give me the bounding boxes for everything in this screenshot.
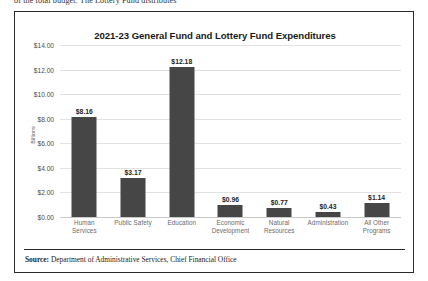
bar-value-label: $0.43 [319,203,336,210]
bar[interactable] [218,205,243,217]
bar[interactable] [267,208,292,217]
bar-slot: $0.77 [255,45,304,217]
x-axis-category-line: Administration [304,219,353,227]
chart-title: 2021-23 General Fund and Lottery Fund Ex… [15,30,415,41]
x-axis-category-line: Natural [255,219,304,227]
y-tick-label: $8.00 [37,115,54,122]
figure-container: 2021-23 General Fund and Lottery Fund Ex… [14,11,414,273]
bar-slot: $0.43 [304,45,353,217]
bar-slot: $3.17 [109,45,158,217]
clipped-body-text: of the total budget. The Lottery Fund di… [14,0,414,6]
x-axis-category-line: Economic [206,219,255,227]
x-axis-category-label: Education [157,219,206,227]
bar[interactable] [364,203,389,217]
bar-value-label: $0.77 [271,199,288,206]
x-axis-category-line: Education [157,219,206,227]
bar[interactable] [169,67,194,217]
x-axis-category-label: Public Safety [109,219,158,227]
bar-value-label: $12.18 [171,58,192,65]
y-tick-label: $4.00 [37,164,54,171]
y-tick-label: $2.00 [37,189,54,196]
y-tick-label: $6.00 [37,140,54,147]
x-axis-category-label: NaturalResources [255,219,304,236]
x-axis-category-line: Development [206,227,255,235]
x-axis-category-label: EconomicDevelopment [206,219,255,236]
bar-slot: $8.16 [60,45,109,217]
bar-value-label: $8.16 [76,108,93,115]
bars-layer: $8.16$3.17$12.18$0.96$0.77$0.43$1.14 [60,45,401,217]
y-tick-label: $0.00 [37,214,54,221]
bar[interactable] [121,178,146,217]
source-note: Source: Department of Administrative Ser… [25,255,237,264]
bar-slot: $12.18 [157,45,206,217]
y-axis-ticks: $0.00$2.00$4.00$6.00$8.00$10.00$12.00$14… [15,45,57,217]
x-axis-category-line: Programs [352,227,401,235]
y-tick-label: $12.00 [34,66,54,73]
x-axis-category-label: Administration [304,219,353,227]
gridline [60,217,401,218]
source-text: Department of Administrative Services, C… [51,255,237,264]
x-axis-category-line: Public Safety [109,219,158,227]
bar-slot: $0.96 [206,45,255,217]
x-axis-category-label: HumanServices [60,219,109,236]
x-axis-category-line: Services [60,227,109,235]
x-axis-category-line: Resources [255,227,304,235]
x-axis-category-line: Human [60,219,109,227]
source-label: Source: [25,255,49,264]
plot-area: $8.16$3.17$12.18$0.96$0.77$0.43$1.14 [60,45,401,217]
footer-divider [24,249,405,250]
y-tick-label: $10.00 [34,91,54,98]
bar-value-label: $3.17 [125,169,142,176]
bar-value-label: $0.96 [222,196,239,203]
bar-slot: $1.14 [352,45,401,217]
x-axis-category-line: All Other [352,219,401,227]
y-tick-label: $14.00 [34,42,54,49]
bar-value-label: $1.14 [368,194,385,201]
bar[interactable] [72,117,97,217]
x-axis-category-label: All OtherPrograms [352,219,401,236]
bar[interactable] [315,212,340,217]
x-axis-labels: HumanServicesPublic SafetyEducationEcono… [60,219,401,247]
